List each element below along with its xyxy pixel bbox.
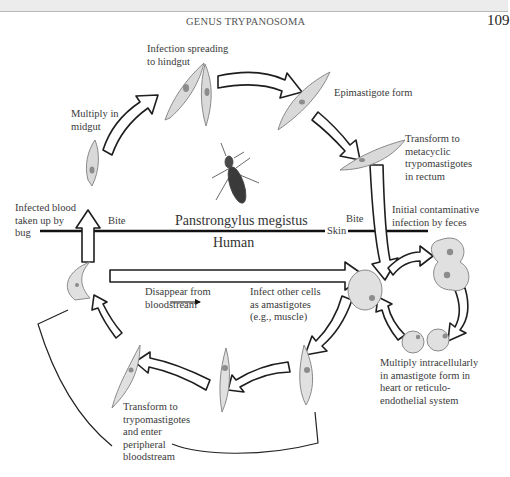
cycle-arrow-icon — [135, 352, 210, 390]
cycle-arrow-icon — [228, 362, 290, 392]
label-host-human: Human — [213, 235, 254, 251]
epimastigote-icon — [86, 140, 98, 186]
amastigote-cell-icon — [348, 270, 382, 310]
label-transform-trypo: Transform to trypomastigotes and enter p… — [123, 401, 190, 464]
label-vector-species: Panstrongylus megistus — [175, 213, 308, 229]
cycle-arrow-icon — [92, 295, 122, 338]
trypomastigote-icon — [67, 262, 90, 300]
trypomastigote-icon — [112, 345, 140, 408]
cycle-arrow-icon — [376, 297, 405, 340]
label-initial-infection: Initial contaminative infection by feces — [392, 204, 479, 229]
label-spreading-hindgut: Infection spreading to hindgut — [147, 43, 228, 68]
label-bite-right: Bite — [346, 213, 364, 226]
label-metacyclic: Transform to metacyclic trypomastigotes … — [405, 133, 472, 183]
bracket-line — [38, 310, 112, 446]
cycle-arrow-icon — [312, 112, 360, 160]
epimastigote-icon — [165, 63, 204, 120]
amastigote-cell-icon — [431, 238, 468, 291]
amastigote-cell-icon — [427, 329, 449, 351]
cycle-arrow-icon — [218, 73, 302, 98]
bracket-line — [172, 412, 318, 453]
label-epimastigote: Epimastigote form — [334, 87, 412, 100]
cycle-arrow-icon — [448, 288, 468, 341]
label-multiply-midgut: Multiply in midgut — [71, 108, 119, 133]
amastigote-cell-icon — [402, 331, 424, 353]
label-multiply-intracellular: Multiply intracellularly in amastigote f… — [380, 357, 478, 407]
label-disappear: Disappear from bloodstream — [145, 286, 211, 311]
label-bite-left: Bite — [108, 215, 126, 228]
label-infect-other-cells: Infect other cells as amastigotes (e.g.,… — [250, 286, 321, 324]
cycle-arrow-icon — [76, 210, 100, 262]
kissing-bug-icon — [212, 143, 259, 205]
trypomastigote-icon — [220, 348, 230, 412]
label-infected-blood: Infected blood taken up by bug — [15, 202, 76, 240]
label-skin: Skin — [325, 225, 348, 238]
